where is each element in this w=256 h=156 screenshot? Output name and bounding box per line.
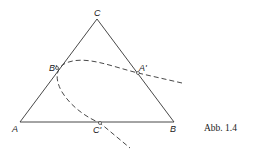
triangle-diagram: C A B B' A' C' Abb. 1.4 xyxy=(0,0,256,156)
label-a-prime: A' xyxy=(138,63,147,73)
label-b-prime: B' xyxy=(49,63,57,73)
triangle-abc xyxy=(20,19,174,122)
label-b: B xyxy=(170,124,176,134)
figure-caption: Abb. 1.4 xyxy=(204,123,237,133)
dashed-curve xyxy=(57,60,182,148)
label-a: A xyxy=(11,124,18,134)
label-c-prime: C' xyxy=(93,125,101,135)
label-c: C xyxy=(94,8,101,18)
